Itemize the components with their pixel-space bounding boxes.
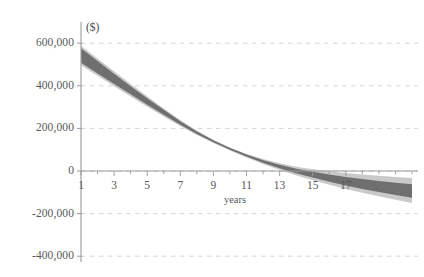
y-axis-unit-label: ($) bbox=[86, 22, 99, 34]
y-axis-tick-label: 200,000 bbox=[36, 122, 74, 134]
y-axis-tick-label: 0 bbox=[68, 165, 74, 177]
x-axis-tick-label: 15 bbox=[301, 180, 325, 192]
gridlines bbox=[81, 43, 418, 256]
axis-lines bbox=[81, 22, 418, 262]
x-axis-tick-label: 7 bbox=[168, 180, 192, 192]
x-axis-tick-label: 13 bbox=[268, 180, 292, 192]
x-axis-tick-label: 1 bbox=[69, 180, 93, 192]
y-axis-tick-label: 600,000 bbox=[36, 37, 74, 49]
chart-container: 600,000400,000200,0000-200,000-400,000 1… bbox=[0, 0, 424, 277]
x-axis-title: years bbox=[224, 195, 246, 206]
x-axis-tick-label: 9 bbox=[201, 180, 225, 192]
x-axis-tick-label: 17 bbox=[334, 180, 358, 192]
y-axis-tick-label: -400,000 bbox=[32, 250, 74, 262]
y-axis-tick-label: 400,000 bbox=[36, 80, 74, 92]
y-axis-tick-label: -200,000 bbox=[32, 208, 74, 220]
x-axis-tick-label: 11 bbox=[235, 180, 259, 192]
x-axis-tick-label: 3 bbox=[102, 180, 126, 192]
x-axis-tick-label: 5 bbox=[135, 180, 159, 192]
tick-marks bbox=[77, 43, 412, 256]
